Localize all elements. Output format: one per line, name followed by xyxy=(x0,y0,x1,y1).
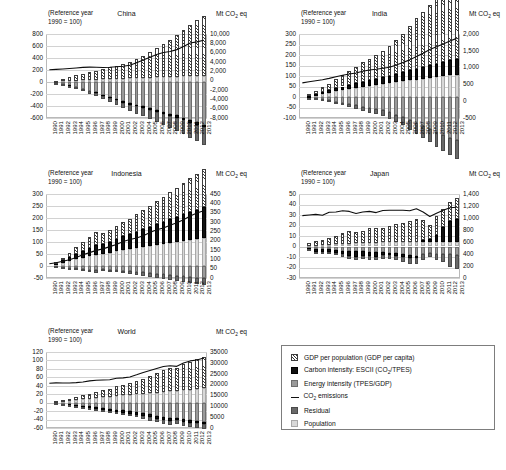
y-axis-tick-right: 2,000 xyxy=(460,31,479,37)
legend-item[interactable]: Carbon intensity: ESCII (CO2/TPES) xyxy=(291,364,494,377)
y-axis-tick-left: 10 xyxy=(289,233,299,239)
x-axis-tick: 2010 xyxy=(439,281,445,295)
y-axis-tick-left: 800 xyxy=(32,31,46,37)
y-axis-tick-right: 200 xyxy=(460,263,474,269)
y-axis-tick-right: 10,000 xyxy=(207,31,230,37)
legend-item[interactable]: Population xyxy=(291,417,494,430)
darkgray-swatch xyxy=(291,407,298,414)
unit-label-china: Mt CO2 eq xyxy=(216,10,247,19)
y-axis-tick-right: 800 xyxy=(460,227,474,233)
y-axis-tick-right: 6,000 xyxy=(207,49,226,55)
y-axis-tick-right: 2,000 xyxy=(207,68,226,74)
co2-emissions-line xyxy=(299,34,460,118)
y-axis-tick-right: 450 xyxy=(207,191,221,197)
x-axis-tick: 2013 xyxy=(459,121,465,135)
chart-title-world: World xyxy=(2,328,251,335)
y-axis-tick-right: 8,000 xyxy=(207,40,226,46)
y-axis-tick-right: 100 xyxy=(207,256,221,262)
y-axis-tick-left: -200 xyxy=(30,91,46,97)
y-axis-tick-right: 1,000 xyxy=(460,215,479,221)
chart-panel-world: (Reference year 1990 = 100)WorldMt CO2 e… xyxy=(2,326,251,470)
gray-swatch xyxy=(291,380,298,387)
plot-area-china: 8006004002000-200-400-60010,0008,0006,00… xyxy=(46,34,207,118)
legend-item[interactable]: CO2 emissions xyxy=(291,391,494,404)
y-axis-tick-left: 600 xyxy=(32,43,46,49)
y-axis-tick-left: 20 xyxy=(289,222,299,228)
legend-label: Energy intensity (TPES/GDP) xyxy=(304,380,392,387)
legend-item[interactable]: GDP per population (GDP per capita) xyxy=(291,351,494,364)
legend-label: GDP per population (GDP per capita) xyxy=(304,354,415,361)
unit-label-india: Mt CO2 eq xyxy=(469,10,500,19)
y-axis-tick-right: -4,000 xyxy=(207,96,228,102)
y-axis-tick-left: 50 xyxy=(36,251,46,257)
x-axis-tick: 2013 xyxy=(459,281,465,295)
y-axis-tick-right: 1,000 xyxy=(460,64,479,70)
y-axis-tick-right: 15000 xyxy=(207,392,228,398)
line-swatch xyxy=(291,397,299,398)
y-axis-tick-right: -2,000 xyxy=(207,87,228,93)
y-axis-tick-right: 25000 xyxy=(207,371,228,377)
y-axis-tick-right: 1,400 xyxy=(460,191,479,197)
co2-emissions-line xyxy=(46,194,207,278)
y-axis-tick-right: 1,200 xyxy=(460,203,479,209)
plot-area-japan: 50403020100-10-20-301,4001,2001,00080060… xyxy=(299,194,460,278)
unit-label-japan: Mt CO2 eq xyxy=(469,170,500,179)
legend-label: Population xyxy=(304,420,336,427)
unit-label-indonesia: Mt CO2 eq xyxy=(216,170,247,179)
y-axis-tick-left: 20 xyxy=(36,391,46,397)
x-axis-tick: 2013 xyxy=(206,281,212,295)
y-axis-tick-left: 80 xyxy=(36,366,46,372)
y-axis-tick-right: 5000 xyxy=(207,414,224,420)
y-axis-tick-right: -6,000 xyxy=(207,105,228,111)
gridline xyxy=(299,278,460,279)
co2-emissions-line xyxy=(46,34,207,118)
y-axis-tick-left: 100 xyxy=(285,73,299,79)
y-axis-tick-right: 250 xyxy=(207,228,221,234)
chart-panel-indonesia: (Reference year 1990 = 100)IndonesiaMt C… xyxy=(2,168,251,320)
y-axis-tick-left: 200 xyxy=(32,67,46,73)
bar-segment xyxy=(448,138,452,155)
y-axis-tick-right: 30000 xyxy=(207,360,228,366)
y-axis-tick-left: 50 xyxy=(289,83,299,89)
y-axis-tick-left: 100 xyxy=(32,239,46,245)
legend-item[interactable]: Residual xyxy=(291,404,494,417)
y-axis-tick-left: -50 xyxy=(34,275,46,281)
y-axis-tick-left: -50 xyxy=(287,104,299,110)
legend-label: CO2 emissions xyxy=(304,392,348,401)
y-axis-tick-right: 50 xyxy=(207,265,217,271)
y-axis-tick-right: 1,500 xyxy=(460,48,479,54)
chart-title-indonesia: Indonesia xyxy=(2,170,251,177)
x-axis-tick: 2010 xyxy=(186,281,192,295)
y-axis-tick-left: 100 xyxy=(32,357,46,363)
y-axis-tick-left: 60 xyxy=(36,374,46,380)
y-axis-tick-left: -10 xyxy=(287,254,299,260)
plot-area-world: 120100806040200-20-40-603500030000250002… xyxy=(46,352,207,428)
plot-area-india: 300250200150100500-50-1002,0001,5001,000… xyxy=(299,34,460,118)
x-axis-tick: 2010 xyxy=(186,121,192,135)
y-axis-tick-right: 400 xyxy=(460,251,474,257)
x-axis-tick: 2010 xyxy=(439,121,445,135)
y-axis-tick-left: 300 xyxy=(32,191,46,197)
y-axis-tick-right: 600 xyxy=(460,239,474,245)
plot-area-indonesia: 300250200150100500-504504003503002502001… xyxy=(46,194,207,278)
y-axis-tick-left: 200 xyxy=(285,52,299,58)
y-axis-tick-left: 250 xyxy=(32,203,46,209)
y-axis-tick-right: 10000 xyxy=(207,403,228,409)
unit-label-world: Mt CO2 eq xyxy=(216,328,247,337)
gridline xyxy=(46,428,207,429)
black-swatch xyxy=(291,367,298,374)
y-axis-tick-right: 35000 xyxy=(207,349,228,355)
y-axis-tick-left: 120 xyxy=(32,349,46,355)
y-axis-tick-left: 30 xyxy=(289,212,299,218)
y-axis-tick-left: 250 xyxy=(285,41,299,47)
y-axis-tick-left: 40 xyxy=(289,201,299,207)
y-axis-tick-right: 20000 xyxy=(207,381,228,387)
y-axis-tick-left: 40 xyxy=(36,383,46,389)
chart-panel-japan: (Reference year 1990 = 100)JapanMt CO2 e… xyxy=(255,168,504,320)
lightgray-swatch xyxy=(291,420,298,427)
chart-title-india: India xyxy=(255,10,504,17)
y-axis-tick-left: 200 xyxy=(32,215,46,221)
y-axis-tick-left: -100 xyxy=(283,115,299,121)
legend-item[interactable]: Energy intensity (TPES/GDP) xyxy=(291,377,494,390)
y-axis-tick-left: -30 xyxy=(287,275,299,281)
